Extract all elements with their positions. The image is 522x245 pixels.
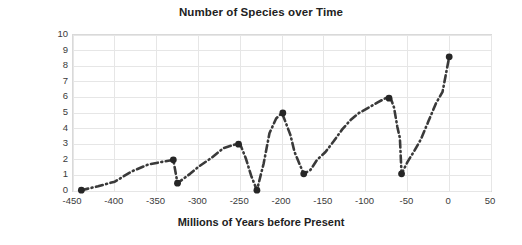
- x-tick-label: 50: [470, 196, 510, 206]
- y-tick-label: 3: [46, 138, 68, 148]
- chart-title: Number of Species over Time: [0, 6, 522, 18]
- y-tick-label: 9: [46, 45, 68, 55]
- data-series: [73, 35, 491, 191]
- x-axis-label: Millions of Years before Present: [0, 216, 522, 228]
- x-tick-label: -100: [345, 196, 385, 206]
- x-tick-label: -50: [386, 196, 426, 206]
- x-axis-tick-labels: -450-400-350-300-250-200-150-100-50050: [72, 196, 490, 210]
- x-tick-label: 0: [428, 196, 468, 206]
- y-tick-label: 8: [46, 60, 68, 70]
- x-tick-label: -350: [136, 196, 176, 206]
- x-tick-label: -300: [177, 196, 217, 206]
- y-tick-label: 7: [46, 76, 68, 86]
- y-axis-tick-labels: 012345678910: [44, 34, 68, 190]
- y-tick-label: 2: [46, 154, 68, 164]
- x-tick-label: -450: [52, 196, 92, 206]
- y-tick-label: 0: [46, 185, 68, 195]
- x-tick-label: -400: [94, 196, 134, 206]
- y-tick-label: 4: [46, 123, 68, 133]
- chart-container: Number of Species over Time Millions of …: [0, 0, 522, 245]
- y-tick-label: 6: [46, 91, 68, 101]
- plot-area: [72, 34, 492, 192]
- y-tick-label: 5: [46, 107, 68, 117]
- y-tick-label: 10: [46, 29, 68, 39]
- x-tick-label: -250: [219, 196, 259, 206]
- x-tick-label: -150: [303, 196, 343, 206]
- x-tick-label: -200: [261, 196, 301, 206]
- y-tick-label: 1: [46, 169, 68, 179]
